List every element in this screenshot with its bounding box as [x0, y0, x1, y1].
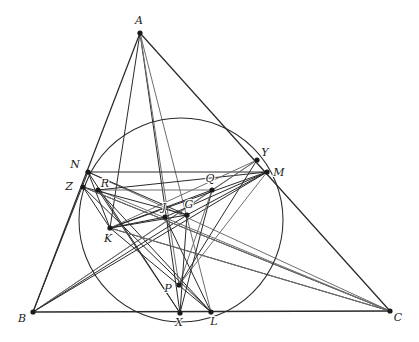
- point-label-C: C: [394, 311, 403, 324]
- point-label-N: N: [69, 158, 80, 171]
- vertex-dot-Q: [209, 187, 214, 192]
- point-label-X: X: [174, 316, 184, 329]
- vertex-dot-R: [95, 187, 100, 192]
- point-label-Z: Z: [64, 180, 73, 193]
- point-label-R: R: [100, 177, 109, 190]
- point-label-P: P: [163, 282, 172, 295]
- vertex-dot-Y: [254, 157, 259, 162]
- vertex-dot-M: [264, 169, 269, 174]
- geometry-canvas: ABCNZRKYMQJGPXL: [0, 0, 419, 342]
- vertex-dot-Z: [80, 184, 85, 189]
- point-label-Q: Q: [205, 172, 214, 185]
- vertex-dot-C: [387, 308, 392, 313]
- vertex-dot-N: [85, 169, 90, 174]
- point-label-B: B: [17, 312, 26, 325]
- point-label-K: K: [103, 232, 113, 245]
- vertex-dot-A: [137, 30, 142, 35]
- vertex-dot-J: [162, 214, 167, 219]
- vertex-dot-K: [107, 225, 112, 230]
- point-label-M: M: [272, 166, 285, 179]
- vertex-dot-L: [208, 309, 213, 314]
- vertex-dot-P: [176, 282, 181, 287]
- vertex-dot-B: [30, 309, 35, 314]
- point-label-J: J: [160, 201, 167, 214]
- geometry-figure: ABCNZRKYMQJGPXL: [0, 0, 419, 342]
- point-label-G: G: [185, 198, 194, 211]
- figure-background: [0, 0, 419, 342]
- vertex-dot-G: [184, 212, 189, 217]
- point-label-L: L: [209, 315, 217, 328]
- point-label-A: A: [134, 14, 143, 27]
- vertex-dot-X: [177, 310, 182, 315]
